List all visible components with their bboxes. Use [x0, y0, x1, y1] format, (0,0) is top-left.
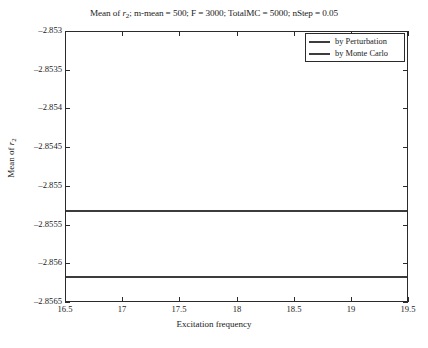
y-tick-mark-right [403, 302, 408, 303]
x-tick-mark [408, 297, 409, 302]
x-tick-label: 19.5 [386, 304, 428, 314]
y-axis-label-subscript: 2 [10, 138, 18, 142]
y-axis-label-prefix: Mean of [6, 145, 16, 178]
x-tick-mark [294, 297, 295, 302]
y-tick-mark [65, 70, 70, 71]
x-tick-label: 17 [100, 304, 144, 314]
legend-item-by-perturbation: by Perturbation [309, 36, 401, 48]
x-tick-mark-top [294, 31, 295, 36]
y-tick-label: –2.8555 [2, 220, 62, 229]
y-tick-label: –2.856 [2, 258, 62, 267]
x-tick-mark-top [237, 31, 238, 36]
x-tick-label: 19 [329, 304, 373, 314]
x-axis-label: Excitation frequency [0, 319, 428, 330]
legend-swatch-icon [309, 41, 330, 43]
legend-item-by-monte-carlo: by Monte Carlo [309, 48, 401, 60]
y-tick-mark [65, 186, 70, 187]
x-tick-label: 17.5 [157, 304, 201, 314]
y-tick-mark [65, 263, 70, 264]
x-tick-label: 18.5 [272, 304, 316, 314]
y-tick-mark [65, 108, 70, 109]
chart-title: Mean of r2; m-mean = 500; F = 3000; Tota… [0, 8, 428, 20]
x-tick-mark-top [408, 31, 409, 36]
y-tick-mark [65, 302, 70, 303]
y-tick-mark-right [403, 186, 408, 187]
x-tick-mark-top [65, 31, 66, 36]
chart-title-suffix: ; m-mean = 500; F = 3000; TotalMC = 5000… [129, 8, 338, 18]
legend-label: by Monte Carlo [335, 49, 388, 59]
series-line-by-monte-carlo [66, 276, 407, 278]
chart-figure: Mean of r2; m-mean = 500; F = 3000; Tota… [0, 0, 428, 348]
x-tick-mark [237, 297, 238, 302]
x-tick-mark [65, 297, 66, 302]
chart-title-subscript: 2 [126, 12, 129, 20]
chart-legend: by Perturbation by Monte Carlo [305, 33, 405, 62]
y-tick-mark-right [403, 70, 408, 71]
y-axis-label-variable: r [6, 142, 16, 146]
x-tick-mark-top [122, 31, 123, 36]
x-tick-mark [351, 297, 352, 302]
y-axis-label: Mean of r2 [6, 108, 18, 208]
y-tick-label: –2.853 [2, 26, 62, 35]
y-tick-mark-right [403, 225, 408, 226]
y-tick-mark-right [403, 108, 408, 109]
series-line-by-perturbation [66, 210, 407, 212]
x-tick-mark [179, 297, 180, 302]
x-tick-mark [122, 297, 123, 302]
x-tick-label: 18 [215, 304, 259, 314]
y-tick-mark-right [403, 147, 408, 148]
y-tick-mark-right [403, 263, 408, 264]
legend-label: by Perturbation [335, 37, 387, 47]
x-tick-mark-top [179, 31, 180, 36]
x-tick-label: 16.5 [43, 304, 87, 314]
y-tick-mark [65, 225, 70, 226]
y-tick-label: –2.8535 [2, 65, 62, 74]
legend-swatch-icon [309, 53, 330, 55]
y-tick-mark [65, 147, 70, 148]
plot-area [65, 31, 408, 302]
chart-title-prefix: Mean of [90, 8, 122, 18]
